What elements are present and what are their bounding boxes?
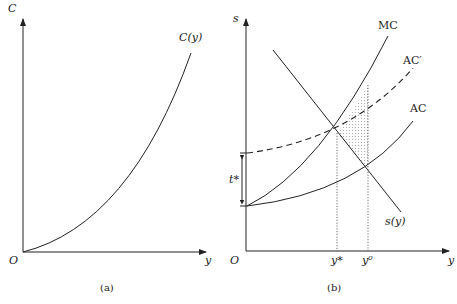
- c-axis-label: C: [8, 2, 17, 15]
- t-star-label: t*: [229, 173, 239, 186]
- origin-label: O: [9, 254, 18, 267]
- ac-label: AC: [409, 102, 426, 115]
- supply-curve-s-of-y: [273, 50, 401, 212]
- ac-prime-curve: [247, 68, 413, 153]
- caption-a: (a): [100, 282, 114, 293]
- supply-label: s(y): [385, 215, 405, 228]
- figure-canvas: C y O C(y) (a) s y O MC AC′ AC s(: [0, 0, 457, 304]
- caption-b: (b): [327, 282, 341, 293]
- s-axis-label: s: [233, 12, 239, 25]
- shaded-region: [337, 85, 368, 168]
- curve-label-c-of-y: C(y): [179, 31, 202, 44]
- y-zero-tick-label: y⁰: [361, 254, 373, 267]
- panel-b: s y O MC AC′ AC s(y) t* y* y⁰ (b): [229, 12, 455, 293]
- mc-label: MC: [378, 19, 398, 32]
- ac-prime-label: AC′: [402, 54, 422, 67]
- y-axis-label: y: [204, 254, 212, 267]
- ac-curve: [247, 121, 413, 206]
- origin-label-b: O: [230, 254, 239, 267]
- panel-a: C y O C(y) (a): [8, 2, 212, 293]
- y-star-tick-label: y*: [330, 254, 343, 267]
- y-axis-label-b: y: [447, 254, 455, 267]
- cost-curve-c-of-y: [23, 53, 191, 252]
